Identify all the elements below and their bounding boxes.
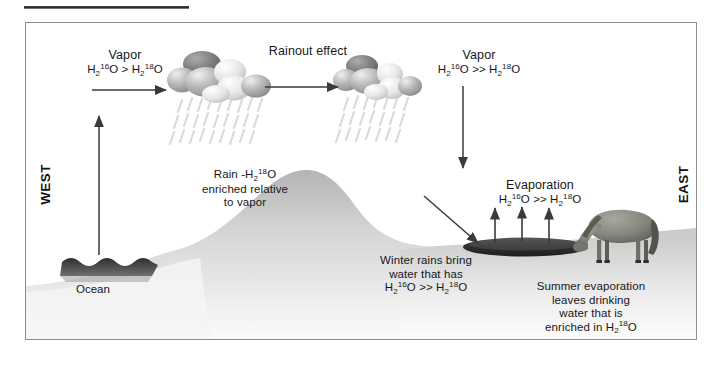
label-winter-rains: Winter rains bring water that has H216O … bbox=[353, 254, 499, 296]
compass-west: WEST bbox=[38, 155, 53, 215]
winter-line-3: H216O >> H218O bbox=[385, 281, 467, 293]
label-summer-evaporation: Summer evaporation leaves drinking water… bbox=[506, 280, 676, 335]
top-rule-divider bbox=[24, 6, 189, 9]
figure-root: WEST EAST Vapor H216O > H218O Rainout ef… bbox=[0, 0, 726, 366]
evaporation-formula: H216O >> H218O bbox=[499, 193, 581, 205]
compass-east: EAST bbox=[676, 155, 691, 215]
summer-line-3: water that is bbox=[559, 307, 622, 319]
summer-line-2: leaves drinking bbox=[552, 294, 630, 306]
label-rain-enriched: Rain -H218O enriched relative to vapor bbox=[175, 168, 315, 210]
vapor-west-formula: H216O > H218O bbox=[87, 63, 163, 75]
rainout-effect-title: Rainout effect bbox=[243, 44, 373, 59]
vapor-west-title: Vapor bbox=[60, 48, 190, 63]
vapor-east-title: Vapor bbox=[404, 48, 554, 63]
rain-line-2: enriched relative bbox=[202, 183, 288, 195]
label-ocean: Ocean bbox=[76, 283, 110, 295]
label-rainout-effect: Rainout effect bbox=[243, 44, 373, 59]
compass-west-label: WEST bbox=[38, 164, 53, 205]
compass-east-label: EAST bbox=[676, 166, 691, 204]
evaporation-title: Evaporation bbox=[465, 178, 615, 193]
rain-line-1: Rain -H218O bbox=[214, 168, 276, 180]
summer-line-1: Summer evaporation bbox=[537, 280, 646, 292]
label-vapor-west: Vapor H216O > H218O bbox=[60, 48, 190, 78]
label-vapor-east: Vapor H216O >> H218O bbox=[404, 48, 554, 78]
label-evaporation: Evaporation H216O >> H218O bbox=[465, 178, 615, 208]
vapor-east-formula: H216O >> H218O bbox=[438, 63, 520, 75]
rain-line-3: to vapor bbox=[224, 196, 266, 208]
winter-line-2: water that has bbox=[389, 268, 463, 280]
summer-line-4: enriched in H218O bbox=[545, 321, 637, 333]
winter-line-1: Winter rains bring bbox=[380, 254, 472, 266]
ocean-label-text: Ocean bbox=[76, 283, 110, 295]
